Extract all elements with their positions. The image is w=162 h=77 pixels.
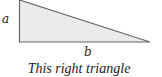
right-triangle-shape (20, 0, 151, 42)
figure-caption: This right triangle (0, 62, 158, 76)
side-b-label: b (84, 46, 92, 58)
side-a-label: a (2, 13, 9, 25)
diagram-canvas: a b This right triangle (0, 0, 162, 77)
